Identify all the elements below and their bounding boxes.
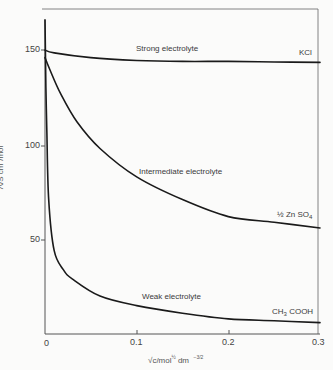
annotation-ch3cooh: CH3 COOH [272, 308, 313, 317]
x-tick-label-0.1: 0.1 [130, 338, 143, 347]
x-axis-label: √c/mol½ dm −3/2 [148, 355, 203, 365]
annotation-intermediate-electrolyte: Intermediate electrolyte [139, 168, 222, 176]
y-tick-label-50: 50 [30, 235, 40, 244]
x-tick-label-0: 0 [44, 339, 49, 348]
y-tick-label-150: 150 [25, 45, 40, 54]
x-tick-label-0.2: 0.2 [222, 338, 235, 347]
y-tick-label-100: 100 [25, 141, 40, 150]
znso4-sub: 4 [309, 214, 312, 220]
y-axis-label: Λ/S cm2/mol [0, 146, 5, 190]
y-axis-label-text: Λ/S cm [0, 164, 5, 190]
x-axis-label-text: √c/mol [148, 356, 172, 365]
y-axis-label-text-2: /mol [0, 146, 5, 161]
znso4-text: ½ Zn SO [277, 210, 309, 219]
annotation-kcl: KCl [299, 49, 312, 57]
x-axis-label-sup2: −3/2 [193, 354, 203, 360]
annotation-weak-electrolyte: Weak electrolyte [142, 293, 201, 301]
ch3cooh-text-2: COOH [287, 307, 313, 316]
annotation-znso4: ½ Zn SO4 [277, 211, 312, 220]
x-tick-label-0.3: 0.3 [312, 338, 325, 347]
x-axis-label-text-2: dm [176, 356, 189, 365]
ch3cooh-text: CH [272, 307, 284, 316]
series-intermediate-electrolyte [45, 58, 320, 228]
annotation-strong-electrolyte: Strong electrolyte [136, 45, 198, 53]
